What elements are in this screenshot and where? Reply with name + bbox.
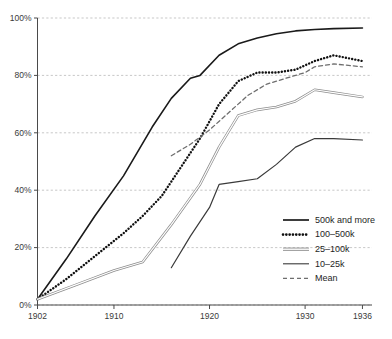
y-tick-label-20: 20%: [14, 242, 31, 252]
legend-label-1: 100–500k: [315, 229, 355, 239]
line-chart: 0%20%40%60%80%100% 19021910192019301936 …: [0, 0, 392, 339]
y-tick-label-40: 40%: [14, 185, 31, 195]
y-tick-label-100: 100%: [10, 13, 32, 23]
x-tick-label-1936: 1936: [353, 311, 372, 321]
x-tick-label-1910: 1910: [104, 311, 123, 321]
y-tick-label-60: 60%: [14, 128, 31, 138]
chart-background: [0, 0, 392, 339]
x-tick-label-1902: 1902: [28, 311, 47, 321]
legend-label-0: 500k and more: [315, 215, 375, 225]
chart-canvas: 0%20%40%60%80%100% 19021910192019301936 …: [0, 0, 392, 339]
x-tick-label-1930: 1930: [296, 311, 315, 321]
y-tick-label-80: 80%: [14, 70, 31, 80]
legend-label-2: 25–100k: [315, 244, 350, 254]
legend-label-3: 10–25k: [315, 259, 345, 269]
legend-label-4: Mean: [315, 273, 338, 283]
x-tick-label-1920: 1920: [200, 311, 219, 321]
y-tick-label-0: 0%: [19, 300, 32, 310]
